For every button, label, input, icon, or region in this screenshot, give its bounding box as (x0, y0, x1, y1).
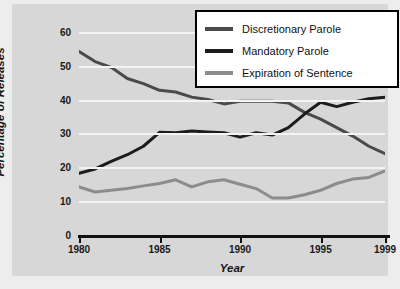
legend-label: Expiration of Sentence (242, 67, 353, 79)
gridline (79, 201, 385, 203)
y-tick-label: 30 (45, 128, 71, 139)
x-tick (385, 237, 387, 243)
y-tick-label: 0 (45, 230, 71, 241)
legend-color-swatch (205, 49, 233, 53)
legend-item: Discretionary Parole (205, 18, 389, 40)
x-tick (321, 237, 323, 243)
legend-color-swatch (205, 27, 233, 31)
legend-label: Mandatory Parole (242, 45, 329, 57)
y-tick-label: 10 (45, 196, 71, 207)
x-tick-label: 1985 (148, 244, 170, 255)
y-tick-label: 40 (45, 95, 71, 106)
y-tick-label: 20 (45, 162, 71, 173)
x-axis-title: Year (220, 262, 245, 274)
y-axis-title: Percentage of Releases (0, 47, 6, 176)
chart-panel: 0102030405060 Percentage of Releases 198… (12, 4, 388, 276)
x-tick-label: 1990 (229, 244, 251, 255)
legend-color-swatch (205, 71, 233, 75)
legend-label: Discretionary Parole (242, 23, 341, 35)
chart-figure: 0102030405060 Percentage of Releases 198… (0, 0, 400, 289)
series-line (79, 171, 385, 198)
x-tick-label: 1995 (309, 244, 331, 255)
x-tick (240, 237, 242, 243)
y-tick-label: 60 (45, 27, 71, 38)
chart-legend: Discretionary ParoleMandatory ParoleExpi… (195, 10, 399, 88)
x-tick-label: 1999 (374, 244, 396, 255)
x-tick (79, 237, 81, 243)
gridline (79, 167, 385, 169)
gridline (79, 100, 385, 102)
x-axis-line (78, 235, 390, 238)
legend-item: Mandatory Parole (205, 40, 389, 62)
legend-item: Expiration of Sentence (205, 62, 389, 84)
x-tick (160, 237, 162, 243)
x-tick-label: 1980 (68, 244, 90, 255)
y-tick-label: 50 (45, 61, 71, 72)
gridline (79, 133, 385, 135)
